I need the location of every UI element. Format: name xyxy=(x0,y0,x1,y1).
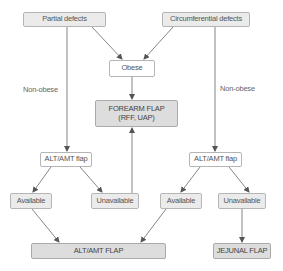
node-unavailable-left: Unavailable xyxy=(91,193,139,209)
node-available-left: Available xyxy=(10,193,52,209)
node-available-left-label: Available xyxy=(17,197,46,206)
node-partial-defects: Partial defects xyxy=(23,12,106,27)
node-circumferential-defects: Circumferential defects xyxy=(162,12,250,27)
node-jejunal-flap: JEJUNAL FLAP xyxy=(213,243,271,259)
node-obese: Obese xyxy=(109,60,155,77)
node-circumferential-defects-label: Circumferential defects xyxy=(170,15,242,24)
node-unavailable-left-label: Unavailable xyxy=(97,197,134,206)
node-partial-defects-label: Partial defects xyxy=(42,15,87,24)
node-available-right: Available xyxy=(160,193,202,209)
node-jejunal-flap-label: JEJUNAL FLAP xyxy=(217,247,268,256)
node-unavailable-right: Unavailable xyxy=(218,193,266,209)
node-alt-amt-flap-left-label: ALT/AMT flap xyxy=(45,155,88,164)
node-alt-amt-flap-outcome: ALT/AMT FLAP xyxy=(31,243,166,259)
node-forearm-flap: FOREARM FLAP (RFF, UAP) xyxy=(95,100,178,127)
node-unavailable-right-label: Unavailable xyxy=(224,197,261,206)
edge-label-non-obese-right: Non-obese xyxy=(220,84,255,93)
edge-label-non-obese-left: Non-obese xyxy=(23,85,58,94)
connector-lines xyxy=(0,0,283,271)
node-alt-amt-flap-right-label: ALT/AMT flap xyxy=(194,155,237,164)
node-alt-amt-flap-outcome-label: ALT/AMT FLAP xyxy=(74,247,123,256)
node-alt-amt-flap-right: ALT/AMT flap xyxy=(189,152,242,167)
node-alt-amt-flap-left: ALT/AMT flap xyxy=(40,152,92,167)
node-obese-label: Obese xyxy=(121,64,142,73)
node-available-right-label: Available xyxy=(167,197,196,206)
node-forearm-flap-subtitle: (RFF, UAP) xyxy=(118,114,154,123)
